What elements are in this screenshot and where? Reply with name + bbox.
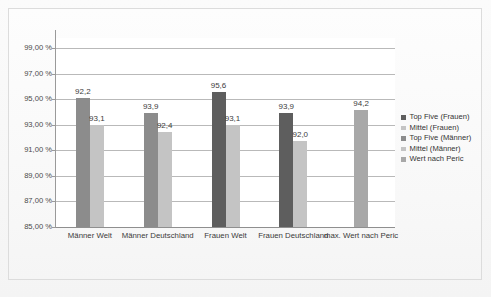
legend-swatch-icon — [401, 136, 406, 141]
legend-item[interactable]: Top Five (Frauen) — [401, 112, 487, 123]
legend-item-label: Top Five (Frauen) — [410, 112, 470, 123]
gridline — [56, 99, 395, 100]
y-axis-tick-label: 95,00 % — [0, 94, 52, 103]
legend-swatch-icon — [401, 126, 406, 131]
bar — [293, 141, 307, 227]
bar — [158, 132, 172, 227]
y-axis-tick-label: 85,00 % — [0, 222, 52, 231]
x-axis-category-label: max. Wert nach Peric — [311, 231, 411, 240]
x-axis-line — [56, 227, 395, 228]
y-axis-tick-label: 89,00 % — [0, 171, 52, 180]
chart-legend: Top Five (Frauen)Mittel (Frauen)Top Five… — [401, 112, 487, 165]
y-axis-tick-label: 97,00 % — [0, 69, 52, 78]
bar-value-label: 93,1 — [219, 114, 247, 123]
y-axis-tick-label: 93,00 % — [0, 120, 52, 129]
bar — [90, 125, 104, 227]
gridline — [56, 74, 395, 75]
legend-swatch-icon — [401, 115, 406, 120]
legend-item[interactable]: Wert nach Peric — [401, 154, 487, 165]
bar-value-label: 92,2 — [69, 87, 97, 96]
gridline — [56, 48, 395, 49]
bar — [144, 113, 158, 227]
bar-value-label: 95,6 — [205, 81, 233, 90]
legend-item-label: Mittel (Frauen) — [410, 123, 459, 134]
bar-value-label: 93,9 — [137, 102, 165, 111]
y-axis-tick-label: 91,00 % — [0, 145, 52, 154]
bar-value-label: 92,0 — [286, 130, 314, 139]
plot-area — [56, 38, 395, 227]
bar — [226, 125, 240, 227]
legend-item-label: Wert nach Peric — [410, 154, 464, 165]
legend-item[interactable]: Top Five (Männer) — [401, 133, 487, 144]
bar-value-label: 94,2 — [347, 99, 375, 108]
bar-value-label: 92,4 — [151, 121, 179, 130]
legend-item[interactable]: Mittel (Männer) — [401, 144, 487, 155]
bar — [354, 110, 368, 227]
chart-figure: 85,00 %87,00 %89,00 %91,00 %93,00 %95,00… — [0, 0, 491, 297]
bar-value-label: 93,1 — [83, 114, 111, 123]
bar-value-label: 93,9 — [272, 102, 300, 111]
legend-item-label: Top Five (Männer) — [410, 133, 472, 144]
legend-swatch-icon — [401, 157, 406, 162]
y-axis-tick-label: 87,00 % — [0, 196, 52, 205]
bar — [212, 92, 226, 227]
y-axis-tick-label: 99,00 % — [0, 43, 52, 52]
legend-item[interactable]: Mittel (Frauen) — [401, 123, 487, 134]
legend-swatch-icon — [401, 147, 406, 152]
legend-item-label: Mittel (Männer) — [410, 144, 461, 155]
